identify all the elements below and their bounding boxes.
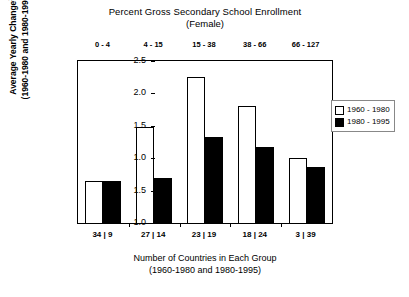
bar	[85, 181, 103, 223]
y-axis-tick: 2.0	[78, 93, 155, 94]
legend-item: 1980 - 1995	[335, 116, 390, 128]
bar-groups	[78, 61, 332, 223]
bar-pair	[129, 61, 180, 223]
y-axis-tick-mark	[151, 223, 155, 224]
y-axis-title-line2: (1960-1980 and 1980-1995)	[19, 0, 31, 127]
legend-swatch-icon	[335, 106, 344, 115]
x-axis-tick-mark	[129, 223, 130, 227]
legend-label: 1980 - 1995	[347, 117, 390, 127]
y-axis-tick-label: 1.0	[133, 217, 146, 228]
category-label-row: 0 - 4 4 - 15 15 - 38 38 - 66 66 - 127	[77, 39, 331, 51]
y-axis-tick-mark	[151, 93, 155, 94]
legend-label: 1960 - 1980	[347, 105, 390, 115]
bar	[136, 127, 154, 223]
y-axis-tick-label: 1.0	[133, 152, 146, 163]
category-label: 0 - 4	[77, 39, 128, 51]
y-axis-tick: 2.5	[78, 61, 155, 62]
bar-group	[78, 61, 129, 223]
bar	[238, 106, 256, 223]
y-axis-footnote-marker: 1	[7, 0, 13, 1]
y-axis-tick-label: 2.5	[133, 55, 146, 66]
y-axis-tick: 1.5	[78, 191, 155, 192]
bar-group	[230, 61, 281, 223]
x-tick-label-row: 34 | 9 27 | 14 23 | 19 18 | 24 3 | 39	[77, 229, 331, 241]
bar-group	[129, 61, 180, 223]
y-axis-tick-label: 1.5	[133, 185, 146, 196]
y-axis-tick-mark	[151, 191, 155, 192]
x-axis-title-line2: (1960-1980 and 1980-1995)	[55, 264, 355, 276]
category-label: 15 - 38	[179, 39, 230, 51]
y-axis-tick-mark	[151, 126, 155, 127]
y-axis-tick: 1.5	[78, 126, 155, 127]
bar-group	[180, 61, 231, 223]
x-tick-label: 18 | 24	[229, 229, 280, 241]
bar	[187, 77, 205, 223]
plot-area: 2.52.01.51.01.51.0	[77, 60, 333, 224]
bar	[205, 137, 223, 223]
bar	[154, 178, 172, 223]
category-label: 66 - 127	[280, 39, 331, 51]
y-axis-title: Average Yearly Change1 (1960-1980 and 19…	[4, 0, 30, 127]
bar	[307, 167, 325, 223]
y-axis-title-line1: Average Yearly Change	[8, 1, 18, 95]
y-axis-tick: 1.0	[78, 223, 155, 224]
bar	[103, 181, 121, 223]
y-axis-tick-label: 2.0	[133, 87, 146, 98]
bar	[289, 158, 307, 223]
x-axis-tick-mark	[281, 223, 282, 227]
x-axis-tick-mark	[230, 223, 231, 227]
chart-figure: Percent Gross Secondary School Enrollmen…	[0, 0, 409, 297]
chart-title: Percent Gross Secondary School Enrollmen…	[55, 6, 355, 18]
y-axis-tick-label: 1.5	[133, 120, 146, 131]
bar-pair	[230, 61, 281, 223]
legend-item: 1960 - 1980	[335, 104, 390, 116]
x-axis-tick-mark	[180, 223, 181, 227]
y-axis-tick-mark	[151, 61, 155, 62]
category-label: 38 - 66	[229, 39, 280, 51]
bar-pair	[281, 61, 332, 223]
x-axis-title-line1: Number of Countries in Each Group	[55, 252, 355, 264]
x-tick-label: 23 | 19	[179, 229, 230, 241]
x-tick-label: 27 | 14	[128, 229, 179, 241]
y-axis-tick-mark	[151, 158, 155, 159]
bar-pair	[78, 61, 129, 223]
bar	[256, 147, 274, 223]
x-tick-label: 34 | 9	[77, 229, 128, 241]
y-axis-tick: 1.0	[78, 158, 155, 159]
legend-swatch-icon	[335, 118, 344, 127]
category-label: 4 - 15	[128, 39, 179, 51]
chart-subtitle: (Female)	[55, 18, 355, 30]
x-tick-label: 3 | 39	[280, 229, 331, 241]
bar-group	[281, 61, 332, 223]
chart-legend: 1960 - 1980 1980 - 1995	[331, 100, 395, 132]
bar-pair	[180, 61, 231, 223]
